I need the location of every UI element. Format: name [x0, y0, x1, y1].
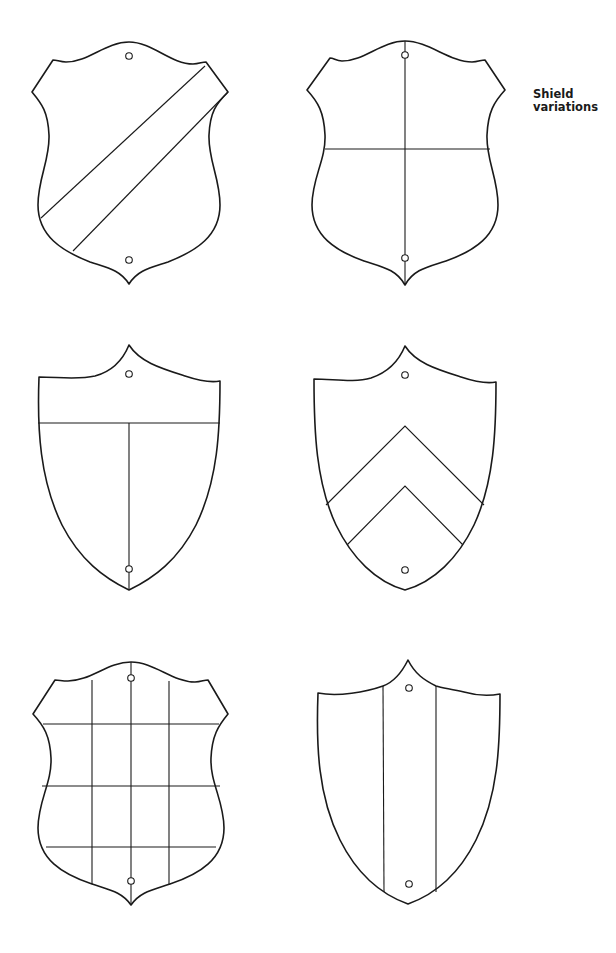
shield-outline	[314, 346, 496, 590]
mounting-hole-top	[128, 675, 135, 682]
mounting-hole-bottom	[126, 566, 133, 573]
title-line-2: variations	[533, 101, 598, 114]
shield-diagram	[0, 0, 616, 953]
shield-outline	[32, 42, 228, 284]
shield-bend	[32, 42, 228, 284]
shield-quarterly	[307, 41, 505, 285]
shield-outline	[307, 41, 505, 285]
mounting-hole-top	[126, 53, 133, 60]
mounting-hole-bottom	[402, 255, 409, 262]
shield-pale	[317, 660, 500, 904]
shield-outline	[317, 660, 500, 904]
shield-chevrons	[314, 346, 496, 590]
shield-chief-and-pale	[38, 345, 220, 590]
mounting-hole-top	[126, 371, 133, 378]
mounting-hole-bottom	[128, 878, 135, 885]
mounting-hole-top	[402, 52, 409, 59]
mounting-hole-top	[406, 685, 413, 692]
mounting-hole-top	[402, 372, 409, 379]
diagram-title: Shield variations	[533, 88, 598, 114]
shield-checky	[33, 662, 228, 905]
mounting-hole-bottom	[126, 257, 133, 264]
mounting-hole-bottom	[402, 567, 409, 574]
mounting-hole-bottom	[406, 881, 413, 888]
